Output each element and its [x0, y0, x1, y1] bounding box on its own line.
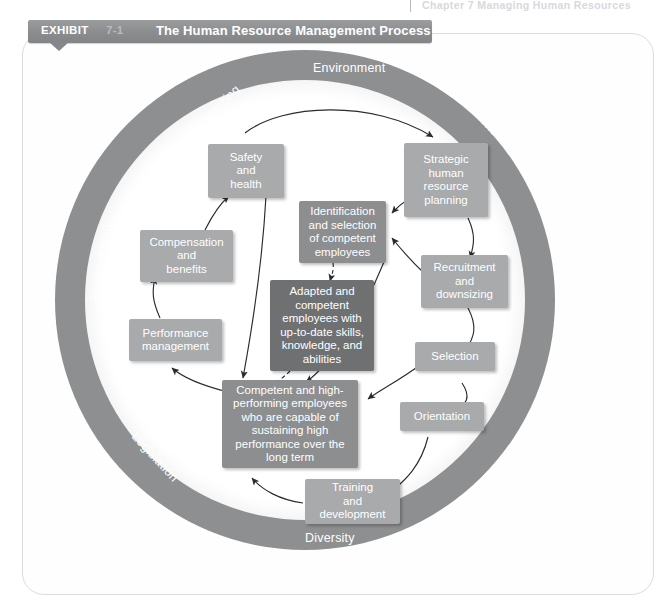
box-competent-high-performing-employees: Competent and high- performing employees…	[222, 380, 358, 468]
box-training-and-development: Training and development	[305, 479, 400, 524]
box-identification-and-selection: Identification and selection of competen…	[299, 201, 386, 263]
running-head-rule	[410, 0, 411, 12]
ring-label-diversity: Diversity	[305, 531, 355, 545]
box-adapted-and-competent-employees: Adapted and competent employees with up-…	[270, 280, 374, 371]
box-strategic-human-resource-planning: Strategic human resource planning	[404, 143, 488, 217]
box-safety-and-health: Safety and health	[208, 144, 284, 198]
ring-label-environment: Environment	[313, 61, 385, 75]
box-compensation-and-benefits: Compensation and benefits	[140, 230, 233, 282]
box-recruitment-and-downsizing: Recruitment and downsizing	[421, 255, 508, 308]
box-performance-management: Performance management	[129, 319, 222, 361]
exhibit-label: EXHIBIT	[41, 24, 88, 36]
exhibit-title: The Human Resource Management Process	[156, 23, 431, 38]
running-head: Chapter 7 Managing Human Resources	[398, 0, 670, 12]
exhibit-page: Chapter 7 Managing Human Resources EXHIB…	[0, 0, 670, 607]
box-orientation: Orientation	[400, 402, 484, 431]
running-head-text: Chapter 7 Managing Human Resources	[422, 0, 631, 11]
exhibit-number: 7-1	[106, 24, 124, 36]
exhibit-header-bar: EXHIBIT 7-1 The Human Resource Managemen…	[28, 20, 432, 43]
box-selection: Selection	[415, 342, 495, 371]
